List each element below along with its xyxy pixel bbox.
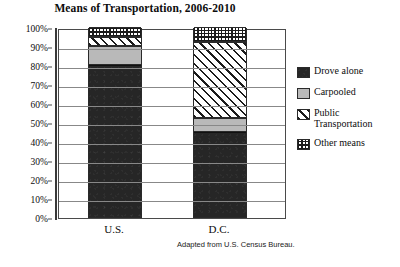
y-tick-mark	[48, 124, 52, 125]
legend-item[interactable]: Carpooled	[297, 87, 400, 99]
y-tick-mark	[48, 162, 52, 163]
y-axis-spine	[55, 28, 57, 220]
y-tick-label: 70%	[31, 81, 48, 91]
y-tick-mark	[48, 181, 52, 182]
y-tick-mark	[48, 48, 52, 49]
y-tick-mark	[48, 143, 52, 144]
gridline	[59, 68, 285, 69]
bar-segment[interactable]	[89, 27, 141, 37]
y-tick-mark	[48, 105, 52, 106]
y-tick-label: 10%	[31, 195, 48, 205]
source-note: Adapted from U.S. Census Bureau.	[177, 240, 295, 249]
bar-segment[interactable]	[89, 37, 141, 47]
legend-item[interactable]: Other means	[297, 138, 400, 150]
y-tick-label: 30%	[31, 157, 48, 167]
y-tick-label: 100%	[26, 24, 48, 34]
y-tick-label: 0%	[35, 214, 48, 224]
gridline	[59, 87, 285, 88]
legend-swatch	[297, 109, 310, 120]
bar-segment[interactable]	[194, 42, 246, 118]
legend-label: Other means	[314, 138, 365, 149]
y-tick-mark	[48, 219, 52, 220]
x-tick-label: U.S.	[74, 223, 154, 235]
plot-area	[58, 29, 286, 219]
gridline	[59, 182, 285, 183]
gridline	[59, 106, 285, 107]
legend-item[interactable]: Public Transportation	[297, 108, 400, 129]
x-tick-label: D.C.	[179, 223, 259, 235]
gridline	[59, 49, 285, 50]
gridline	[59, 201, 285, 202]
legend-swatch	[297, 67, 310, 78]
legend-swatch	[297, 88, 310, 99]
y-tick-label: 20%	[31, 176, 48, 186]
legend-label: Public Transportation	[314, 108, 400, 129]
bar-segment[interactable]	[89, 65, 141, 217]
y-tick-label: 60%	[31, 100, 48, 110]
y-tick-mark	[48, 86, 52, 87]
legend-item[interactable]: Drove alone	[297, 66, 400, 78]
bar-us[interactable]	[88, 28, 142, 218]
chart-container: Means of Transportation, 2006-2010 0%10%…	[0, 0, 400, 267]
y-tick-mark	[48, 29, 52, 30]
y-tick-label: 50%	[31, 119, 48, 129]
y-tick-label: 80%	[31, 62, 48, 72]
gridline	[59, 163, 285, 164]
legend-label: Carpooled	[314, 87, 356, 98]
gridline	[59, 144, 285, 145]
chart-title: Means of Transportation, 2006-2010	[0, 2, 290, 14]
y-tick-label: 40%	[31, 138, 48, 148]
gridline	[59, 125, 285, 126]
bar-dc[interactable]	[193, 28, 247, 218]
y-tick-mark	[48, 200, 52, 201]
y-tick-mark	[48, 67, 52, 68]
legend-label: Drove alone	[314, 66, 363, 77]
legend: Drove aloneCarpooledPublic Transportatio…	[297, 66, 400, 159]
legend-swatch	[297, 139, 310, 150]
y-axis: 0%10%20%30%40%50%60%70%80%90%100%	[0, 29, 52, 219]
bar-segment[interactable]	[194, 27, 246, 42]
y-tick-label: 90%	[31, 43, 48, 53]
